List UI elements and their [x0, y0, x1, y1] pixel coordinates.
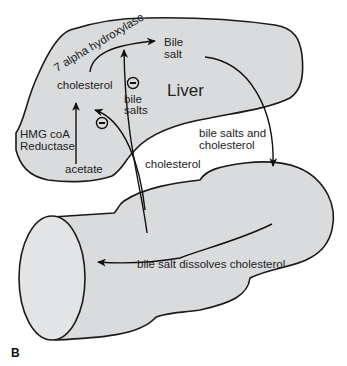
label-hmg-coa-2: Reductase [20, 140, 75, 152]
label-bile-salt-1: Bile [164, 36, 183, 48]
label-bile-salt-2: salt [164, 48, 183, 60]
label-bile-salt-dissolves: bile salt dissolves cholesterol [137, 258, 285, 270]
label-bile-salts-2: salts [124, 104, 148, 116]
label-bile-salts-and: bile salts and [199, 127, 266, 139]
panel-label: B [11, 346, 20, 360]
label-bile-salts-and-cholesterol: cholesterol [199, 139, 255, 151]
label-hmg-coa-1: HMG coA [20, 128, 70, 140]
label-acetate: acetate [65, 163, 103, 175]
intestine [19, 162, 333, 340]
label-liver: Liver [167, 81, 204, 100]
bile-salt-cholesterol-diagram: 7 alpha hydroxylase Bile salt cholestero… [0, 0, 347, 366]
label-cholesterol-liver: cholesterol [57, 79, 113, 91]
intestine-body [52, 162, 333, 340]
intestine-opening [19, 216, 85, 340]
label-cholesterol-return: cholesterol [145, 158, 201, 170]
